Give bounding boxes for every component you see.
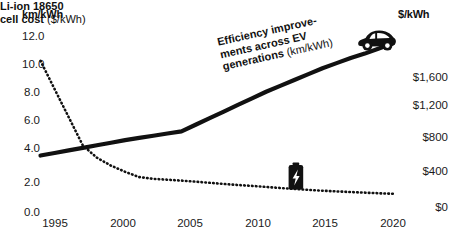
- series-line-efficiency: [41, 43, 394, 155]
- battery-bolt-icon: [288, 162, 304, 194]
- series-line-cell-cost: [41, 61, 394, 194]
- dual-axis-line-chart: km/kWh $/kWh 12.0 10.0 8.0 6.0 4.0 2.0 0…: [0, 0, 453, 242]
- ev-car-icon: [357, 29, 397, 57]
